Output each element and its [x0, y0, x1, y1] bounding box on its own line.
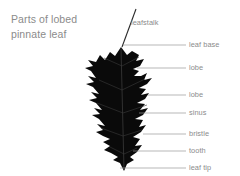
label-tooth: tooth	[189, 146, 206, 155]
label-leaf-base: leaf base	[189, 40, 219, 49]
label-leaf-tip: leaf tip	[189, 163, 211, 172]
label-leafstalk: leafstalk	[131, 18, 159, 27]
label-bristle: bristle	[189, 129, 209, 138]
label-sinus: sinus	[189, 108, 207, 117]
leaf-anatomy-diagram: Parts of lobed pinnate leaf leafstalk le…	[0, 0, 240, 176]
label-lobe-upper: lobe	[189, 63, 203, 72]
label-lobe-lower: lobe	[189, 90, 203, 99]
